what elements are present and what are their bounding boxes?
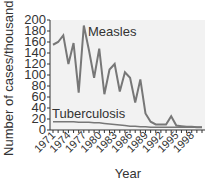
- measles-label: Measles: [88, 24, 137, 39]
- line-chart: 020406080100120140160180200 197119741977…: [0, 0, 213, 189]
- svg-text:200: 200: [24, 12, 46, 27]
- x-axis-label: Year: [115, 166, 142, 181]
- tuberculosis-label: Tuberculosis: [52, 106, 126, 121]
- y-axis-label: Number of cases/thousands: [1, 0, 16, 156]
- x-axis: 1971197419771980198319861989199219951998: [32, 129, 205, 155]
- y-axis: 020406080100120140160180200: [24, 12, 50, 137]
